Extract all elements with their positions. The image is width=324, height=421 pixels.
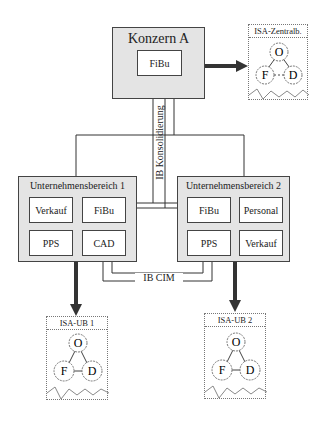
ub1-fibu: FiBu [82,197,126,223]
unternehmensbereich-1: Unternehmensbereich 1 Verkauf FiBu PPS C… [18,176,137,262]
svg-text:F: F [219,363,226,377]
svg-text:O: O [74,336,83,350]
isa-ub1: ISA-UB 1 O F D [46,316,108,400]
ub2-verkauf: Verkauf [239,230,283,256]
ub2-personal: Personal [239,197,283,223]
ub2-pps: PPS [187,230,231,256]
ib-konsolidierung-label-wrap: IB Konsolidierung [152,100,166,185]
unternehmensbereich-2: Unternehmensbereich 2 FiBu Personal PPS … [177,176,290,262]
ub2-title: Unternehmensbereich 2 [178,180,289,191]
konzern-title: Konzern A [113,31,204,47]
svg-text:F: F [61,364,68,378]
ofd-graph-icon: O F D [47,317,109,401]
isa-zentral: ISA-Zentralb. O F D [248,24,308,100]
svg-text:O: O [275,45,284,59]
konzern-fibu: FiBu [137,50,182,76]
ub1-verkauf: Verkauf [29,197,73,223]
svg-text:D: D [88,364,97,378]
isa-ub2: ISA-UB 2 O F D [204,313,266,399]
ofd-graph-icon: O F D [205,314,267,400]
ib-cim-label: IB CIM [135,273,183,283]
svg-text:D: D [289,68,298,82]
svg-text:D: D [246,363,255,377]
konzern-box: Konzern A FiBu [112,27,205,99]
svg-text:F: F [262,68,269,82]
ub1-pps: PPS [29,230,73,256]
ib-konsolidierung-label: IB Konsolidierung [154,105,165,180]
ub1-title: Unternehmensbereich 1 [19,180,136,191]
ofd-graph-icon: O F D [249,25,309,101]
ub1-cad: CAD [82,230,126,256]
ub2-fibu: FiBu [187,197,231,223]
svg-text:O: O [232,335,241,349]
